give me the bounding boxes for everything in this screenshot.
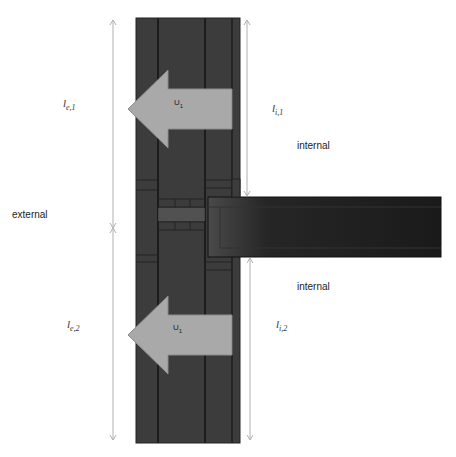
label-external: external	[12, 209, 48, 220]
label-u1-top: U1	[174, 98, 183, 109]
symbol-le2: le,2	[67, 318, 80, 333]
symbol-le1: le,1	[63, 97, 76, 112]
label-internal-bottom: internal	[297, 281, 330, 292]
label-internal-top: internal	[297, 140, 330, 151]
junction-drawing	[0, 0, 456, 457]
dimension-line-li2	[247, 258, 253, 440]
dimension-line-le2	[110, 228, 116, 440]
symbol-li1: li,1	[272, 102, 283, 117]
symbol-li2: li,2	[276, 318, 287, 333]
dimension-line-le1	[110, 20, 116, 228]
floor-slab	[208, 179, 441, 257]
dimension-line-li1	[244, 20, 250, 196]
label-u1-bottom: U1	[173, 323, 182, 334]
